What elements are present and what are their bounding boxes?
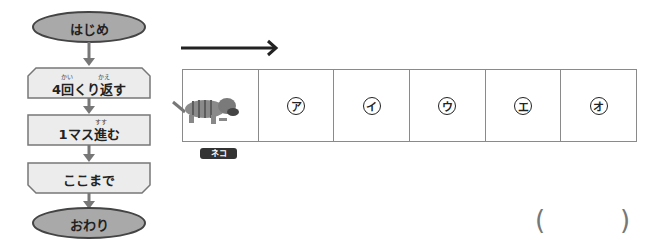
- end-label: おわり: [28, 215, 150, 234]
- loop-end-label: ここまで: [28, 170, 150, 189]
- board-cell-start: [183, 70, 259, 141]
- board-cell-u[interactable]: ウ: [410, 70, 486, 141]
- answer-close-paren: ): [620, 205, 630, 235]
- cell-label-e: エ: [514, 97, 532, 115]
- answer-field[interactable]: [552, 210, 618, 240]
- board-cell-e[interactable]: エ: [486, 70, 562, 141]
- cell-label-u: ウ: [438, 97, 456, 115]
- character-name-badge: ネコ: [200, 148, 237, 159]
- board-cell-o[interactable]: オ: [561, 70, 636, 141]
- start-label: はじめ: [28, 19, 150, 38]
- cell-label-i: イ: [363, 97, 381, 115]
- cell-label-a: ア: [287, 97, 305, 115]
- loop-start-label: 4回くり返す: [28, 79, 150, 98]
- board-cell-i[interactable]: イ: [334, 70, 410, 141]
- board-cell-a[interactable]: ア: [259, 70, 335, 141]
- answer-open-paren: (: [535, 205, 545, 235]
- cat-character-icon: [171, 82, 241, 132]
- right-arrow-icon: [178, 38, 284, 58]
- cell-label-o: オ: [590, 97, 608, 115]
- board-grid: ア イ ウ エ オ: [182, 69, 637, 142]
- process-label: 1マス進む: [28, 124, 150, 143]
